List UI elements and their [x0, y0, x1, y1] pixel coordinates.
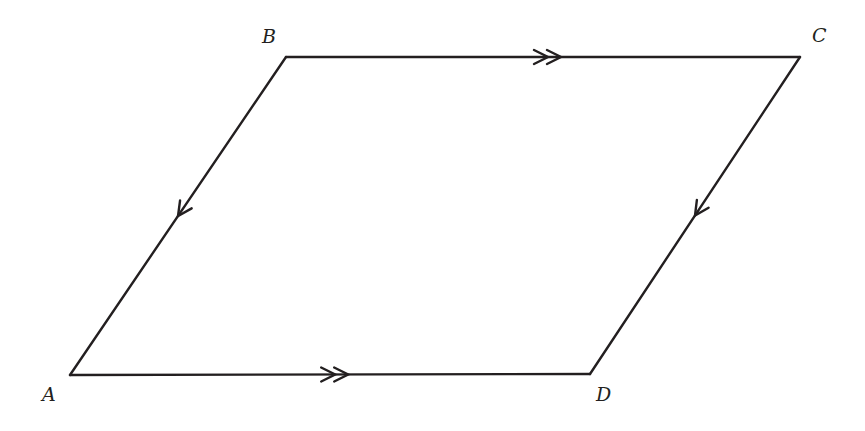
arrow-icon — [695, 200, 709, 216]
arrow-icon — [178, 200, 192, 216]
vertex-label-c: C — [812, 24, 827, 46]
vertex-label-a: A — [40, 383, 56, 405]
edge-AD — [70, 374, 590, 375]
vertex-label-b: B — [261, 25, 276, 47]
parallelogram-diagram: ABCD — [0, 0, 865, 431]
vertex-label-d: D — [595, 383, 611, 405]
